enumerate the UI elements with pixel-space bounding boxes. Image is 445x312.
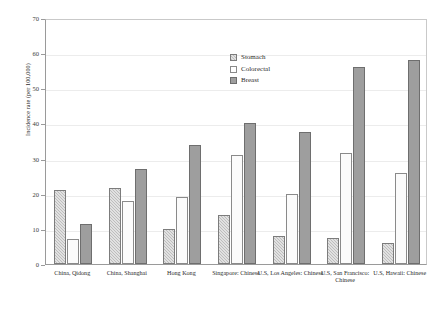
bar-colorectal [176, 197, 188, 264]
bar-colorectal [340, 153, 352, 264]
bar-group [327, 20, 365, 264]
bar-group [163, 20, 201, 264]
incidence-rate-bar-chart: Incidence rate (per 100,000) 01020304050… [0, 0, 445, 312]
y-tick-40: 40 [0, 120, 39, 127]
y-tick-20: 20 [0, 191, 39, 198]
bar-breast [408, 60, 420, 264]
bar-stomach [109, 188, 121, 264]
x-tick-label: U.S, Hawaii: Chinese [366, 270, 433, 277]
bar-stomach [327, 238, 339, 264]
legend-item-breast: Breast [230, 75, 270, 87]
y-tick-mark-0 [41, 265, 45, 266]
bar-stomach [273, 236, 285, 264]
y-tick-70: 70 [0, 15, 39, 22]
bar-group [273, 20, 311, 264]
bar-stomach [382, 243, 394, 264]
bar-colorectal [286, 194, 298, 264]
bar-stomach [54, 190, 66, 264]
legend: Stomach Colorectal Breast [230, 52, 270, 87]
bar-stomach [218, 215, 230, 264]
bar-group [54, 20, 92, 264]
legend-swatch-breast-icon [230, 77, 237, 84]
legend-label-colorectal: Colorectal [241, 64, 270, 76]
legend-label-stomach: Stomach [241, 52, 266, 64]
y-tick-60: 60 [0, 50, 39, 57]
y-tick-0: 0 [0, 261, 39, 268]
bar-breast [135, 169, 147, 264]
bar-breast [189, 145, 201, 264]
bar-group [382, 20, 420, 264]
y-axis-title: Incidence rate (per 100,000) [24, 25, 31, 175]
bar-colorectal [122, 201, 134, 264]
y-tick-50: 50 [0, 85, 39, 92]
legend-swatch-stomach-icon [230, 54, 237, 61]
y-tick-30: 30 [0, 156, 39, 163]
bar-colorectal [231, 155, 243, 264]
bar-breast [244, 123, 256, 264]
bar-breast [80, 224, 92, 264]
bar-group [109, 20, 147, 264]
legend-swatch-colorectal-icon [230, 66, 237, 73]
bar-breast [299, 132, 311, 264]
legend-item-stomach: Stomach [230, 52, 270, 64]
bar-stomach [163, 229, 175, 264]
bar-colorectal [67, 239, 79, 264]
y-tick-10: 10 [0, 226, 39, 233]
legend-label-breast: Breast [241, 75, 259, 87]
bar-colorectal [395, 173, 407, 264]
legend-item-colorectal: Colorectal [230, 64, 270, 76]
bar-breast [353, 67, 365, 264]
